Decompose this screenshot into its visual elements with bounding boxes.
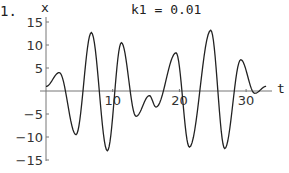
y-tick-label: −15 [16, 153, 43, 168]
y-tick-label: 10 [26, 38, 43, 53]
y-tick-label: 5 [35, 61, 43, 76]
y-tick-label: −5 [24, 107, 43, 122]
x-tick-label: 30 [238, 93, 255, 108]
x-ticks: 102030 [104, 89, 254, 108]
y-tick-label: −10 [16, 130, 43, 145]
x-tick-label: 10 [104, 93, 121, 108]
x-tick-label: 20 [171, 93, 188, 108]
y-tick-label: 15 [26, 15, 43, 30]
line-chart: 15105−5−10−15 102030 [0, 0, 289, 173]
